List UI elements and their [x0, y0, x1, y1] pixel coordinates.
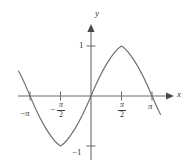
x-axis-label: x	[177, 90, 181, 99]
x-tick-label-pi: π	[148, 102, 153, 111]
pi-half-denominator: 2	[118, 111, 126, 119]
pi-half-numerator: π	[118, 101, 126, 109]
x-axis-arrowhead-icon	[166, 92, 174, 99]
neg-one-digit: 1	[77, 147, 82, 157]
x-tick-label-neg-pi: −π	[20, 102, 30, 120]
neg-pi-half-denominator: 2	[57, 111, 65, 119]
x-tick-label-pi-half: π 2	[118, 101, 126, 119]
sine-function-graph-figure: y x 1 −1 −π − π 2 π 2 π	[0, 0, 186, 164]
y-tick-label-one: 1	[79, 41, 84, 50]
neg-pi-symbol: π	[25, 108, 30, 118]
y-tick-label-neg-one: −1	[72, 141, 82, 159]
neg-pi-half-minus-sign: −	[50, 105, 55, 114]
neg-pi-half-numerator: π	[57, 101, 65, 109]
y-axis-label: y	[95, 9, 99, 18]
plot-canvas	[0, 0, 186, 164]
y-axis-arrowhead-icon	[87, 24, 94, 32]
x-tick-label-neg-pi-half: − π 2	[57, 101, 65, 119]
